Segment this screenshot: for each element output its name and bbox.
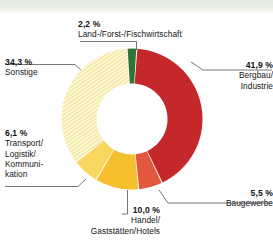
callout-label-agriculture: 2,2 % Land-/Forst-/Fischwirtschaft (78, 19, 258, 40)
callout-name-other: Sonstige (5, 67, 85, 77)
callout-percent-other: 34,3 % (5, 57, 85, 67)
callout-percent-mining: 41,9 % (205, 60, 273, 70)
callout-name-mining-line1: Bergbau/ (205, 70, 273, 80)
callout-percent-trade: 10,0 % (8, 205, 160, 215)
callout-name-transport-line1: Transport/ (5, 138, 77, 148)
callout-name-agriculture: Land-/Forst-/Fischwirtschaft (78, 29, 258, 39)
callout-percent-agriculture: 2,2 % (78, 19, 258, 29)
callout-label-mining: 41,9 % Bergbau/ Industrie (205, 60, 273, 91)
callout-name-trade-line1: Handel/ (8, 215, 160, 225)
callout-percent-transport: 6,1 % (5, 128, 77, 138)
callout-name-transport-line2: Logistik/ (5, 149, 77, 159)
callout-label-trade: 10,0 % Handel/ Gaststätten/Hotels (8, 205, 160, 236)
callout-label-other: 34,3 % Sonstige (5, 57, 85, 78)
callout-name-transport-line3: Kommuni- (5, 159, 77, 169)
callout-name-construction: Baugewerbe (190, 198, 273, 208)
callout-label-construction: 5,5 % Baugewerbe (190, 188, 273, 209)
donut-slice-agriculture[interactable]: Land-/Forst-/Fischwirtschaft 2,2 % (128, 49, 137, 84)
donut-chart: Land-/Forst-/Fischwirtschaft 2,2 %Bergba… (0, 0, 273, 251)
callout-name-transport-line4: kation (5, 169, 77, 179)
callout-name-trade-line2: Gaststätten/Hotels (8, 226, 160, 236)
callout-label-transport: 6,1 % Transport/ Logistik/ Kommuni- kati… (5, 128, 77, 179)
callout-name-mining-line2: Industrie (205, 81, 273, 91)
callout-percent-construction: 5,5 % (190, 188, 273, 198)
